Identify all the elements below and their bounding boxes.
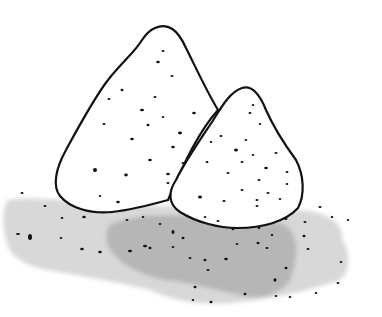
rocks-illustration xyxy=(0,0,382,317)
ground-shadow xyxy=(3,199,348,304)
illustration-canvas xyxy=(0,0,382,317)
